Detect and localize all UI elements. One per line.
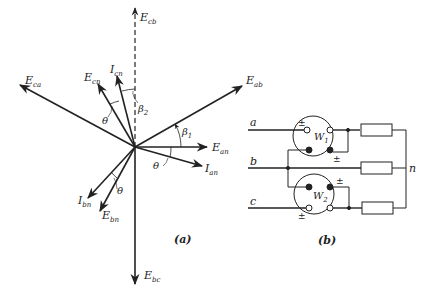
label-E-cn: Ecn xyxy=(83,71,101,86)
diagram-canvas: Ecb Eab Ean Ian Eca Ecn Icn Ibn Ebn Ebc … xyxy=(0,0,431,295)
angle-arc-beta1 xyxy=(175,124,181,147)
phasor-diagram xyxy=(20,8,242,284)
angle-arc-theta-a xyxy=(170,147,171,157)
load-impedance-b xyxy=(361,162,392,174)
label-I-cn: Icn xyxy=(109,63,123,78)
label-E-cb: Ecb xyxy=(139,11,157,26)
polarity-mark-W1-voltage: ± xyxy=(333,154,341,164)
label-W2: W2 xyxy=(313,190,328,204)
load-impedance-c xyxy=(362,202,393,214)
label-E-ca: Eca xyxy=(24,74,41,89)
phasor-I-an xyxy=(135,147,202,166)
polarity-mark-W2-voltage: ± xyxy=(336,176,344,186)
caption-a: (a) xyxy=(174,233,192,246)
phasor-I-cn xyxy=(117,76,135,147)
label-I-an: Ian xyxy=(204,162,219,177)
polarity-mark-W1-current: ± xyxy=(298,118,306,128)
angle-arc-theta-b xyxy=(112,173,117,178)
label-neutral: n xyxy=(409,162,416,175)
label-E-ab: Eab xyxy=(245,74,263,89)
label-beta2: β2 xyxy=(137,103,149,117)
label-line-a: a xyxy=(250,116,257,129)
label-line-c: c xyxy=(250,195,256,208)
label-theta-c: θ xyxy=(102,115,108,126)
label-line-b: b xyxy=(250,155,257,168)
load-impedance-a xyxy=(361,124,392,136)
polarity-mark-W2-current: ± xyxy=(298,211,306,221)
label-E-bn: Ebn xyxy=(101,209,120,224)
label-theta-b: θ xyxy=(117,185,123,196)
angle-arc-theta-c xyxy=(110,101,119,104)
label-theta-a: θ xyxy=(153,160,159,171)
phasor-E-ca xyxy=(20,85,135,147)
label-W1: W1 xyxy=(314,131,329,145)
caption-b: (b) xyxy=(318,234,336,247)
label-E-an: Ean xyxy=(211,141,229,156)
angle-arc-beta2 xyxy=(122,89,135,91)
label-E-bc: Ebc xyxy=(143,269,161,284)
label-beta1: β1 xyxy=(181,126,192,140)
